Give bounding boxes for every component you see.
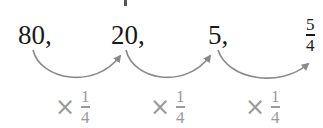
- arrow-2-icon: [126, 50, 210, 77]
- arrow-1-icon: [33, 50, 120, 77]
- times-icon: ×: [55, 95, 75, 119]
- fraction-denominator: 4: [81, 109, 90, 126]
- fraction-denominator: 4: [176, 109, 185, 126]
- multiplier-1: × 1 4: [55, 88, 90, 126]
- multiplier-fraction: 1 4: [271, 88, 280, 126]
- times-icon: ×: [150, 95, 170, 119]
- multiplier-3: × 1 4: [245, 88, 280, 126]
- multiplier-fraction: 1 4: [81, 88, 90, 126]
- fraction-numerator: 1: [176, 88, 185, 105]
- arrow-3-icon: [218, 50, 308, 78]
- multiplier-2: × 1 4: [150, 88, 185, 126]
- times-icon: ×: [245, 95, 265, 119]
- multiplier-fraction: 1 4: [176, 88, 185, 126]
- fraction-numerator: 1: [81, 88, 90, 105]
- fraction-denominator: 4: [271, 109, 280, 126]
- fraction-numerator: 1: [271, 88, 280, 105]
